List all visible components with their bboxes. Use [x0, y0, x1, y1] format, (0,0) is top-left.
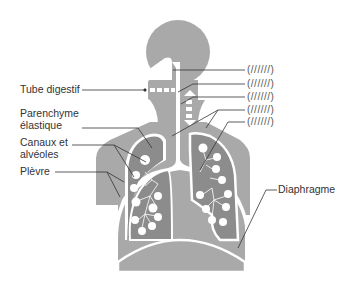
label-parenchyme-line1: Parenchyme: [20, 108, 79, 119]
label-canaux-line2: alvéoles: [20, 149, 59, 160]
hatched-label-2: (//////): [247, 78, 274, 89]
hatched-label-1: (//////): [247, 64, 274, 75]
hatched-label-5: (//////): [247, 116, 274, 127]
label-parenchyme-line2: élastique: [20, 120, 62, 131]
hatched-label-4: (//////): [247, 104, 274, 115]
hatched-label-3: (//////): [247, 91, 274, 102]
label-diaphragme: Diaphragme: [278, 184, 335, 195]
label-plevre: Plèvre: [20, 166, 50, 177]
label-tube-digestif: Tube digestif: [20, 84, 80, 95]
label-canaux-line1: Canaux et: [20, 137, 68, 148]
